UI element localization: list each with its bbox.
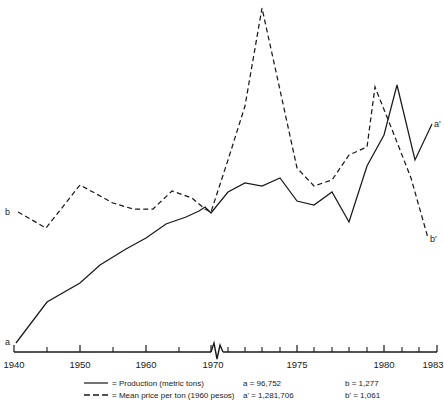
x-tick-label-1970: 1970 bbox=[202, 359, 223, 370]
series-line-production bbox=[16, 85, 432, 343]
x-axis: 1940 1950 1960 1970 1975 1980 1983 bbox=[3, 343, 443, 370]
x-axis-break-zigzag bbox=[211, 343, 223, 359]
note-b-prime-value: b' = 1,061 bbox=[345, 391, 381, 400]
endpoint-label-a-prime: a' bbox=[434, 119, 441, 129]
series-line-mean-price bbox=[18, 8, 428, 238]
legend-item-mean-price: = Mean price per ton (1960 pesos) bbox=[84, 391, 235, 400]
chart-figure: 1940 1950 1960 1970 1975 1980 1983 b a a… bbox=[0, 0, 444, 406]
x-tick-label-1980: 1980 bbox=[373, 359, 394, 370]
x-tick-label-1983: 1983 bbox=[422, 359, 443, 370]
endpoint-label-b: b bbox=[5, 207, 10, 217]
line-chart-svg: 1940 1950 1960 1970 1975 1980 1983 b a a… bbox=[0, 0, 444, 406]
note-a-prime-value: a' = 1,281,706 bbox=[243, 391, 294, 400]
legend: = Production (metric tons) = Mean price … bbox=[84, 379, 235, 400]
x-tick-label-1950: 1950 bbox=[69, 359, 90, 370]
legend-label-production: = Production (metric tons) bbox=[112, 379, 204, 388]
x-axis-tick-labels: 1940 1950 1960 1970 1975 1980 1983 bbox=[3, 359, 443, 370]
note-b-value: b = 1,277 bbox=[345, 379, 379, 388]
x-axis-minor-ticks bbox=[47, 347, 419, 352]
x-tick-label-1940: 1940 bbox=[3, 359, 24, 370]
x-tick-label-1975: 1975 bbox=[286, 359, 307, 370]
endpoint-label-b-prime: b' bbox=[430, 234, 437, 244]
value-notes: a = 96,752 a' = 1,281,706 b = 1,277 b' =… bbox=[243, 379, 381, 400]
x-axis-major-ticks bbox=[14, 345, 437, 352]
endpoint-labels: b a a' b' bbox=[5, 119, 441, 347]
endpoint-label-a: a bbox=[5, 337, 10, 347]
legend-item-production: = Production (metric tons) bbox=[84, 379, 204, 388]
x-tick-label-1960: 1960 bbox=[135, 359, 156, 370]
note-a-value: a = 96,752 bbox=[243, 379, 282, 388]
legend-label-mean-price: = Mean price per ton (1960 pesos) bbox=[112, 391, 235, 400]
